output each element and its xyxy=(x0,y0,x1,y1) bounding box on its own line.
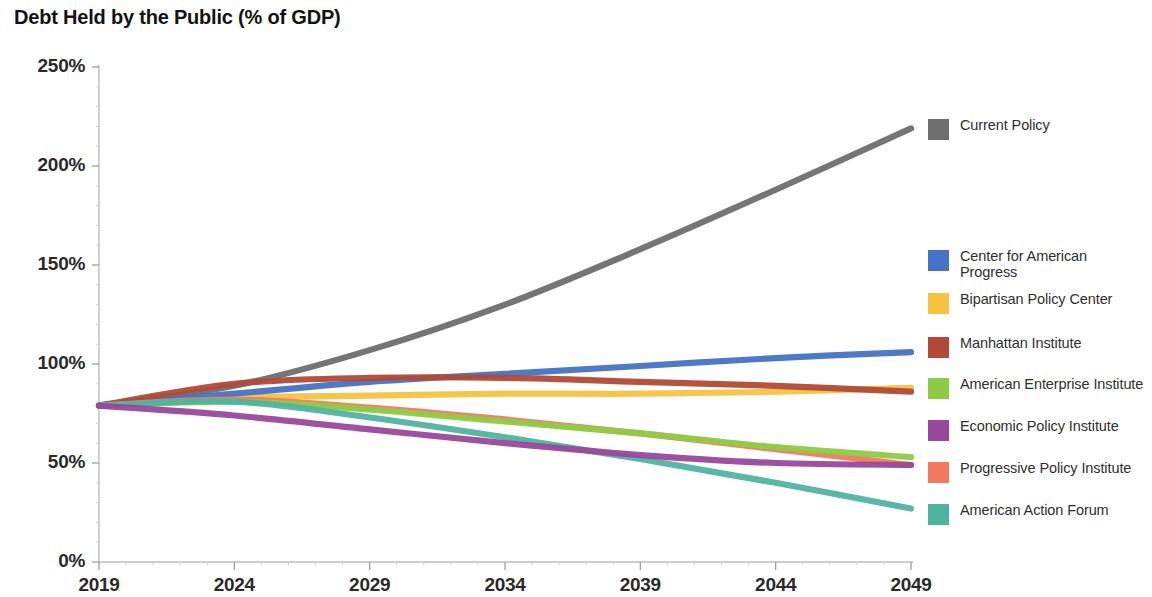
x-axis-label-2034: 2034 xyxy=(460,574,550,596)
series-line-progressive-policy-institute xyxy=(99,400,911,465)
legend-color-swatch xyxy=(928,293,949,314)
chart-legend: Current PolicyCenter for American Progre… xyxy=(928,104,1152,564)
legend-color-swatch xyxy=(928,337,949,358)
legend-item[interactable]: Economic Policy Institute xyxy=(928,419,1119,441)
chart-container: Debt Held by the Public (% of GDP) 0%50%… xyxy=(0,0,1152,597)
x-axis-label-2019: 2019 xyxy=(54,574,144,596)
legend-item[interactable]: Current Policy xyxy=(928,118,1050,140)
legend-color-swatch xyxy=(928,462,949,483)
y-axis-label-150: 150% xyxy=(5,253,85,275)
y-axis-label-200: 200% xyxy=(5,154,85,176)
x-axis-label-2024: 2024 xyxy=(189,574,279,596)
legend-item-label: Center for American Progress xyxy=(960,249,1145,280)
y-axis-label-250: 250% xyxy=(5,55,85,77)
legend-item-label: Current Policy xyxy=(960,118,1050,134)
y-axis-label-50: 50% xyxy=(5,451,85,473)
y-axis-label-0: 0% xyxy=(5,550,85,572)
legend-item[interactable]: Progressive Policy Institute xyxy=(928,461,1131,483)
legend-item[interactable]: American Enterprise Institute xyxy=(928,377,1143,399)
x-axis-label-2044: 2044 xyxy=(731,574,821,596)
legend-color-swatch xyxy=(928,119,949,140)
legend-item[interactable]: Bipartisan Policy Center xyxy=(928,292,1112,314)
x-axis-label-2039: 2039 xyxy=(595,574,685,596)
legend-item-label: Economic Policy Institute xyxy=(960,419,1119,435)
x-axis-label-2049: 2049 xyxy=(866,574,956,596)
legend-item-label: Manhattan Institute xyxy=(960,336,1081,352)
legend-item[interactable]: Manhattan Institute xyxy=(928,336,1081,358)
legend-item-label: American Enterprise Institute xyxy=(960,377,1143,393)
x-axis-label-2029: 2029 xyxy=(325,574,415,596)
series-line-current-policy xyxy=(99,128,911,405)
series-line-american-enterprise-institute xyxy=(99,402,911,458)
legend-item[interactable]: American Action Forum xyxy=(928,503,1109,525)
legend-color-swatch xyxy=(928,250,949,271)
legend-color-swatch xyxy=(928,420,949,441)
legend-item-label: Progressive Policy Institute xyxy=(960,461,1131,477)
legend-item[interactable]: Center for American Progress xyxy=(928,249,1145,280)
y-axis-label-100: 100% xyxy=(5,352,85,374)
legend-color-swatch xyxy=(928,378,949,399)
legend-color-swatch xyxy=(928,504,949,525)
legend-item-label: Bipartisan Policy Center xyxy=(960,292,1112,308)
legend-item-label: American Action Forum xyxy=(960,503,1109,519)
